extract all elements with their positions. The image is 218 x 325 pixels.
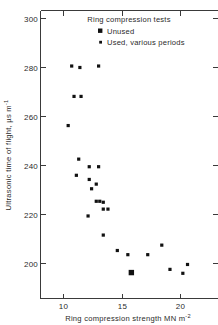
data-point-used — [102, 208, 105, 211]
data-point-used — [181, 272, 184, 275]
x-tick-label: 15 — [118, 302, 128, 311]
x-axis-title: Ring compression strength MN m-2 — [65, 313, 191, 324]
data-point-used — [168, 268, 171, 271]
data-point-used — [95, 183, 98, 186]
legend: Ring compression tests Unused Used, vari… — [87, 15, 184, 48]
x-tick-label: 20 — [176, 302, 186, 311]
data-point-used — [88, 165, 91, 168]
legend-label-unused: Unused — [107, 27, 134, 36]
y-tick-label: 280 — [24, 64, 38, 73]
data-point-used — [75, 174, 78, 177]
data-point-used — [97, 64, 100, 67]
data-point-used — [67, 124, 70, 127]
data-point-used — [72, 95, 75, 98]
y-tick-marks — [41, 19, 218, 264]
y-tick-labels: 300 280 260 240 220 200 — [24, 15, 38, 269]
legend-marker-used — [99, 41, 102, 44]
y-axis-title: Ultrasonic time of flight, µs m-1 — [3, 100, 14, 211]
data-point-used — [102, 201, 105, 204]
x-tick-marks — [64, 11, 181, 299]
data-point-used — [95, 200, 98, 203]
data-point-used — [186, 263, 189, 266]
x-axis-title-text: Ring compression strength MN m — [65, 314, 185, 323]
data-point-used — [160, 244, 163, 247]
data-point-used — [97, 165, 100, 168]
data-point-used — [102, 233, 105, 236]
x-tick-label: 10 — [59, 302, 69, 311]
x-tick-labels: 10 15 20 — [59, 302, 186, 311]
data-point-used — [78, 66, 81, 69]
scatter-plot-svg: 300 280 260 240 220 200 10 15 20 Ring co… — [0, 0, 218, 325]
data-point-unused — [129, 270, 134, 275]
data-point-used — [70, 64, 73, 67]
data-point-used — [116, 249, 119, 252]
data-point-used — [106, 208, 109, 211]
legend-title: Ring compression tests — [87, 15, 170, 24]
legend-marker-unused — [98, 29, 102, 33]
data-point-used — [90, 187, 93, 190]
data-point-used — [79, 95, 82, 98]
data-point-used — [88, 178, 91, 181]
data-point-used — [77, 158, 80, 161]
data-point-used — [86, 214, 89, 217]
ultrasonic-scatter-figure: 300 280 260 240 220 200 10 15 20 Ring co… — [0, 0, 218, 325]
data-point-used — [146, 253, 149, 256]
y-axis-title-text: Ultrasonic time of flight, µs m — [4, 105, 13, 210]
data-point-used — [98, 200, 101, 203]
y-tick-label: 220 — [24, 211, 38, 220]
y-tick-label: 240 — [24, 162, 38, 171]
legend-label-used: Used, various periods — [107, 38, 185, 47]
x-axis-title-exponent: -2 — [185, 313, 190, 319]
y-tick-label: 260 — [24, 113, 38, 122]
data-points-layer — [67, 64, 190, 275]
data-point-used — [126, 253, 129, 256]
y-axis-title-exponent: -1 — [3, 100, 9, 105]
y-tick-label: 300 — [24, 15, 38, 24]
y-tick-label: 200 — [24, 260, 38, 269]
